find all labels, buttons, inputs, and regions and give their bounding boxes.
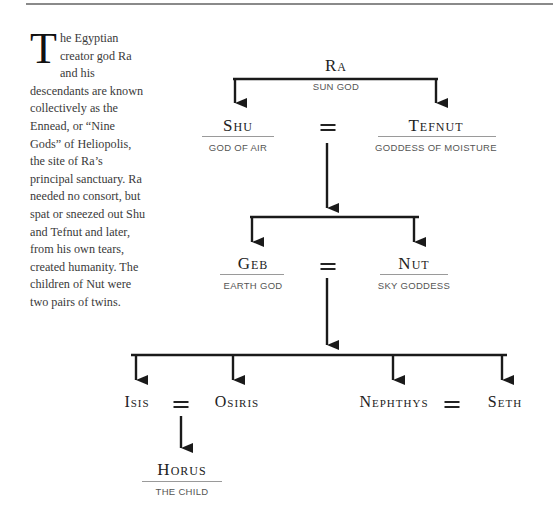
marriage-geb-nut	[321, 263, 336, 270]
node-tefnut-title: GODDESS OF MOISTURE	[375, 142, 497, 153]
marriage-shu-tefnut	[321, 124, 336, 131]
node-nut-name: Nut	[398, 254, 429, 274]
node-osiris-name: Osiris	[215, 393, 259, 411]
node-seth-name: Seth	[488, 393, 522, 411]
marriage-nephthys-seth	[445, 401, 460, 408]
node-geb-title: EARTH GOD	[223, 280, 282, 291]
node-shu-name: Shu	[223, 116, 253, 136]
node-ra-title: SUN GOD	[313, 81, 359, 92]
node-nut-underline	[380, 274, 448, 275]
node-nephthys-name: Nephthys	[359, 393, 428, 411]
node-horus-underline	[142, 481, 222, 482]
node-tefnut-name: Tefnut	[408, 116, 463, 136]
node-tefnut-underline	[378, 136, 496, 137]
node-shu-title: GOD OF AIR	[209, 142, 267, 153]
node-ra-name: Ra	[325, 56, 347, 76]
node-nut-title: SKY GODDESS	[378, 280, 450, 291]
node-shu-underline	[202, 136, 274, 137]
node-geb-name: Geb	[238, 254, 269, 274]
family-tree-connectors	[0, 0, 553, 514]
node-horus-name: Horus	[157, 460, 206, 480]
node-horus-title: THE CHILD	[156, 486, 209, 497]
marriage-isis-osiris	[174, 401, 189, 408]
node-isis-name: Isis	[124, 393, 149, 411]
node-geb-underline	[220, 274, 284, 275]
